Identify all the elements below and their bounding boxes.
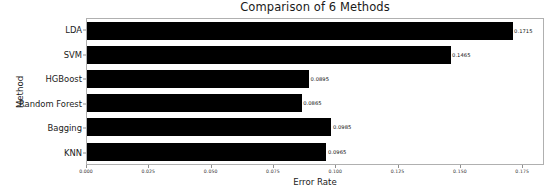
x-tick-label: 0.125 bbox=[391, 169, 405, 174]
bar-row: 0.0965 bbox=[87, 140, 543, 164]
bar-row: 0.0895 bbox=[87, 67, 543, 91]
x-tick-label: 0.175 bbox=[515, 169, 529, 174]
x-tick-label: 0.000 bbox=[79, 169, 93, 174]
bar-value-bagging: 0.0985 bbox=[331, 124, 351, 130]
x-tick-mark bbox=[148, 165, 149, 168]
bar-value-lda: 0.1715 bbox=[513, 28, 533, 34]
y-tick-label-svm: SVM bbox=[64, 50, 82, 60]
x-tick-label: 0.050 bbox=[204, 169, 218, 174]
y-tick-label-lda: LDA bbox=[65, 25, 82, 35]
bars-container: 0.1715 0.1465 0.0895 0.0865 0.0985 0.096 bbox=[87, 19, 543, 164]
y-tick-label-bagging: Bagging bbox=[48, 123, 82, 133]
x-tick-mark bbox=[211, 165, 212, 168]
bar-lda bbox=[87, 22, 513, 40]
x-tick-label: 0.100 bbox=[328, 169, 342, 174]
x-axis-title: Error Rate bbox=[86, 177, 544, 187]
chart-figure: Comparison of 6 Methods Method LDA SVM H… bbox=[0, 0, 557, 195]
x-tick-label: 0.150 bbox=[453, 169, 467, 174]
bar-value-knn: 0.0965 bbox=[326, 149, 346, 155]
y-axis-labels: Method LDA SVM HGBoost Random Forest Bag… bbox=[0, 18, 86, 165]
bar-value-svm: 0.1465 bbox=[451, 52, 471, 58]
plot-area: 0.1715 0.1465 0.0895 0.0865 0.0985 0.096 bbox=[86, 18, 544, 165]
y-tick-label-knn: KNN bbox=[64, 148, 82, 158]
x-tick-label: 0.075 bbox=[266, 169, 280, 174]
bar-knn bbox=[87, 143, 326, 161]
x-tick-mark bbox=[460, 165, 461, 168]
bar-hgboost bbox=[87, 70, 309, 88]
x-tick-mark bbox=[335, 165, 336, 168]
x-tick-mark bbox=[398, 165, 399, 168]
bar-row: 0.1715 bbox=[87, 19, 543, 43]
x-tick-mark bbox=[86, 165, 87, 168]
bar-bagging bbox=[87, 118, 331, 136]
bar-row: 0.0985 bbox=[87, 116, 543, 140]
chart-title: Comparison of 6 Methods bbox=[86, 0, 544, 14]
bar-row: 0.1465 bbox=[87, 43, 543, 67]
bar-random-forest bbox=[87, 94, 302, 112]
bar-value-random-forest: 0.0865 bbox=[302, 100, 322, 106]
y-tick-label-hgboost: HGBoost bbox=[46, 74, 82, 84]
x-tick-mark bbox=[273, 165, 274, 168]
x-tick-label: 0.025 bbox=[141, 169, 155, 174]
x-tick-mark bbox=[522, 165, 523, 168]
bar-row: 0.0865 bbox=[87, 92, 543, 116]
y-tick-label-random-forest: Random Forest bbox=[19, 99, 82, 109]
bar-svm bbox=[87, 46, 451, 64]
bar-value-hgboost: 0.0895 bbox=[309, 76, 329, 82]
